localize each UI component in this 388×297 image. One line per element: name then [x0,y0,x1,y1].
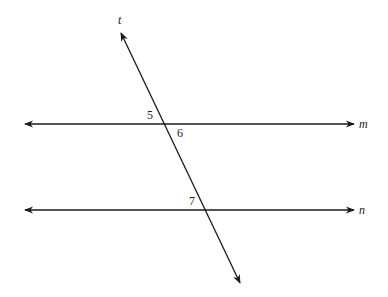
label-n: n [359,203,365,217]
diagram-canvas: t m n 5 6 7 [0,0,388,297]
label-t: t [118,13,122,27]
angle-7-label: 7 [189,194,195,208]
angle-5-label: 5 [147,108,153,122]
angle-6-label: 6 [177,126,183,140]
transversal-t [121,33,240,283]
label-m: m [359,117,368,131]
